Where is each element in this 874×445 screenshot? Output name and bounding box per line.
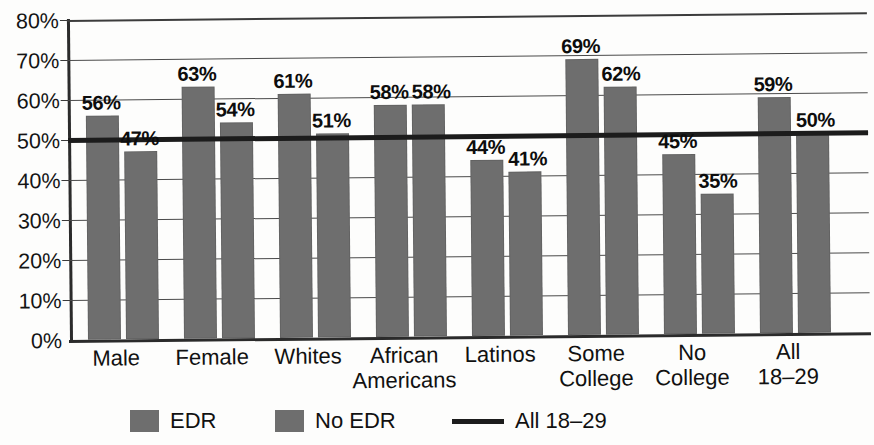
square-swatch-icon <box>275 410 304 432</box>
category-line-2: Americans <box>352 367 456 393</box>
value-label-noedr-male: 47% <box>120 127 159 150</box>
y-axis-tick-label: 20% <box>0 249 61 275</box>
bar-chart-figure: 80% 70% 60% 50% 40% 30% 20% 10% 0% <box>0 0 874 445</box>
bar-noedr-all-18-29 <box>796 133 831 333</box>
category-line-2: 18–29 <box>740 364 836 390</box>
square-swatch-icon <box>130 410 159 432</box>
chart-legend: EDR No EDR All 18–29 <box>0 404 874 444</box>
bar-edr-whites <box>278 94 313 338</box>
value-label-noedr-whites: 51% <box>312 109 351 132</box>
bar-noedr-latinos <box>508 171 543 335</box>
gridline-70 <box>67 52 867 61</box>
category-line-1: No <box>678 340 706 365</box>
plot-area <box>67 12 870 340</box>
value-label-edr-latinos: 44% <box>466 136 505 159</box>
x-axis-category-female: Female <box>164 344 260 370</box>
category-line-2: College <box>548 365 644 391</box>
y-axis-tick-label: 70% <box>0 49 59 75</box>
legend-label: No EDR <box>315 410 396 432</box>
bar-edr-male <box>86 115 121 339</box>
category-line-1: Some <box>567 341 625 367</box>
value-label-edr-female: 63% <box>177 62 216 85</box>
category-line-2: College <box>644 364 740 390</box>
value-label-noedr-african-americans: 58% <box>412 80 451 103</box>
category-line-1: All <box>776 339 801 364</box>
x-axis-category-male: Male <box>68 345 164 371</box>
value-label-noedr-some-college: 62% <box>601 62 640 85</box>
value-label-noedr-latinos: 41% <box>508 147 547 170</box>
x-axis-category-whites: Whites <box>260 343 356 369</box>
y-axis-tick-label: 50% <box>0 129 60 155</box>
value-label-edr-no-college: 45% <box>658 130 697 153</box>
x-axis-category-no-college: No College <box>644 339 740 390</box>
line-sample-icon <box>452 419 504 424</box>
value-label-noedr-female: 54% <box>216 98 255 121</box>
value-label-edr-all-18-29: 59% <box>753 73 792 96</box>
value-label-edr-whites: 61% <box>273 70 312 93</box>
y-axis-tick-label: 80% <box>0 9 59 35</box>
value-label-noedr-all-18-29: 50% <box>796 109 835 132</box>
value-label-edr-african-americans: 58% <box>370 81 409 104</box>
category-line-1: Whites <box>274 343 341 369</box>
legend-item-all-18-29: All 18–29 <box>452 410 607 432</box>
y-axis-tick-label: 30% <box>0 209 61 235</box>
bar-noedr-whites <box>316 133 351 337</box>
y-axis-tick-label: 40% <box>0 169 61 195</box>
bar-noedr-male <box>124 151 159 339</box>
value-label-edr-some-college: 69% <box>561 35 600 58</box>
category-line-1: African <box>370 342 439 368</box>
legend-item-no-edr: No EDR <box>275 410 396 432</box>
category-line-1: Female <box>175 344 249 370</box>
x-axis-category-some-college: Some College <box>548 340 644 391</box>
value-label-noedr-no-college: 35% <box>698 169 737 192</box>
bar-noedr-some-college <box>604 86 639 334</box>
bar-noedr-female <box>220 122 255 338</box>
bar-noedr-no-college <box>701 194 735 334</box>
category-line-1: Male <box>92 345 140 370</box>
category-line-1: Latinos <box>465 341 536 367</box>
y-axis-tick-label: 10% <box>0 289 62 315</box>
value-label-edr-male: 56% <box>82 91 121 114</box>
x-axis-category-african-americans: African Americans <box>352 342 456 393</box>
legend-label: All 18–29 <box>515 410 607 432</box>
legend-item-edr: EDR <box>130 410 216 432</box>
bar-edr-some-college <box>565 59 601 335</box>
y-axis-tick-label: 60% <box>0 89 60 115</box>
bar-edr-no-college <box>662 154 697 334</box>
bar-edr-female <box>182 87 217 339</box>
x-axis-category-latinos: Latinos <box>452 341 548 367</box>
chart-skew-wrapper: 80% 70% 60% 50% 40% 30% 20% 10% 0% <box>0 0 874 445</box>
y-axis-tick-label: 0% <box>0 329 62 355</box>
legend-label: EDR <box>170 410 216 432</box>
bar-edr-latinos <box>470 160 505 336</box>
x-axis-category-all-18-29: All 18–29 <box>740 339 836 390</box>
